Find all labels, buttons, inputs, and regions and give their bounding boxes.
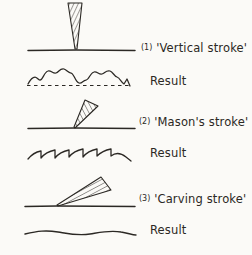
carving-stroke-group xyxy=(25,177,135,207)
label-carving-number: (3) xyxy=(139,194,150,203)
carving-stroke-baseline xyxy=(25,206,135,207)
masons-stroke-group xyxy=(28,100,135,129)
label-masons-stroke: (2) 'Mason's stroke' xyxy=(139,117,248,129)
vertical-stroke-group xyxy=(28,3,135,51)
label-mason-text: 'Mason's stroke' xyxy=(154,115,248,129)
label-carving-text: 'Carving stroke' xyxy=(154,192,246,206)
masons-chisel-tool xyxy=(74,100,98,128)
carving-chisel-tool xyxy=(57,177,111,206)
label-result-mason: Result xyxy=(150,148,186,160)
label-vertical-text: 'Vertical stroke' xyxy=(156,41,247,55)
label-carving-stroke: (3) 'Carving stroke' xyxy=(139,194,246,206)
label-mason-number: (2) xyxy=(139,117,150,126)
label-result-carving: Result xyxy=(150,225,186,237)
vertical-stroke-result-group xyxy=(27,69,131,86)
sawtooth-result-line xyxy=(28,149,131,161)
figure-page: (1) 'Vertical stroke' Result (2) 'Mason'… xyxy=(0,0,252,255)
vertical-chisel-tool xyxy=(68,3,82,49)
masons-stroke-baseline xyxy=(28,128,135,129)
label-vertical-number: (1) xyxy=(141,43,152,52)
carving-stroke-result-group xyxy=(25,231,136,235)
masons-stroke-result-group xyxy=(28,149,131,161)
label-vertical-stroke: (1) 'Vertical stroke' xyxy=(141,43,247,55)
bumpy-result-line xyxy=(28,69,130,86)
label-result-vertical: Result xyxy=(150,76,186,88)
undulating-result-line xyxy=(25,231,136,235)
vertical-stroke-baseline xyxy=(28,50,135,51)
